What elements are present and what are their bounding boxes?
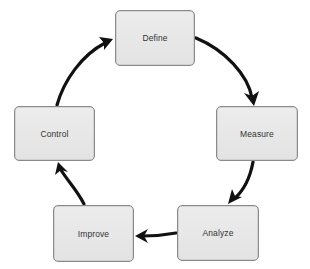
node-improve-label: Improve bbox=[78, 229, 109, 239]
node-control-label: Control bbox=[40, 129, 68, 139]
node-define-label: Define bbox=[142, 33, 167, 43]
arrowhead-define-to-measure-icon bbox=[244, 91, 259, 106]
arrowhead-control-to-define-icon bbox=[99, 37, 113, 50]
node-analyze: Analyze bbox=[177, 205, 259, 261]
arrowhead-measure-to-analyze-icon bbox=[228, 189, 242, 204]
arrow-define-to-measure bbox=[196, 38, 252, 98]
node-improve: Improve bbox=[53, 205, 134, 262]
node-define: Define bbox=[115, 10, 195, 66]
node-measure: Measure bbox=[216, 106, 298, 161]
arrow-improve-to-control bbox=[61, 170, 84, 204]
node-analyze-label: Analyze bbox=[203, 228, 234, 238]
arrow-control-to-define bbox=[57, 43, 105, 105]
node-measure-label: Measure bbox=[240, 129, 274, 139]
arrowhead-improve-to-control-icon bbox=[55, 162, 68, 175]
arrowhead-analyze-to-improve-icon bbox=[135, 229, 148, 243]
node-control: Control bbox=[14, 106, 95, 161]
arrow-analyze-to-improve bbox=[143, 233, 176, 236]
dmaic-cycle-diagram: Define Measure Analyze Improve Control bbox=[0, 0, 310, 269]
arrow-measure-to-analyze bbox=[235, 162, 253, 198]
